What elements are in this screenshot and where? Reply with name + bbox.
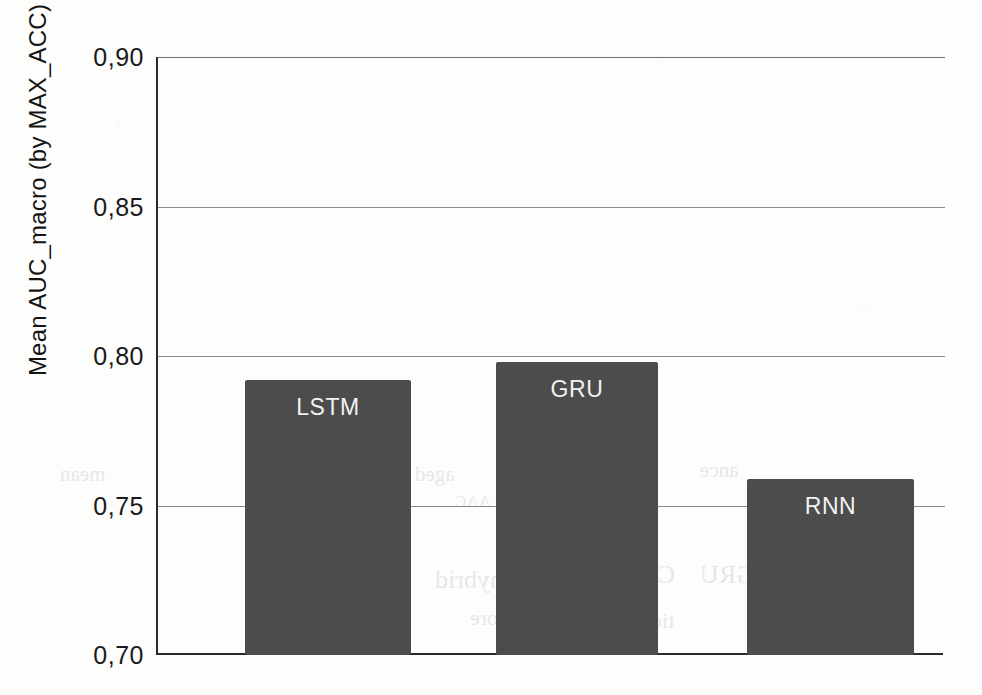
y-axis-tick-labels: 0,900,850,800,750,70: [0, 0, 144, 695]
gridline: [158, 207, 945, 208]
y-axis-tick-label: 0,75: [0, 491, 144, 520]
gridline: [158, 356, 945, 357]
y-axis-tick-label: 0,90: [0, 43, 144, 72]
bar-gru[interactable]: GRU: [496, 362, 658, 655]
y-axis-tick-label: 0,85: [0, 192, 144, 221]
y-axis-tick-label: 0,70: [0, 641, 144, 670]
bar-chart: Mean AUC_macro (by MAX_ACC) 0,900,850,80…: [0, 0, 982, 695]
bar-lstm[interactable]: LSTM: [245, 380, 411, 655]
bar-rnn[interactable]: RNN: [747, 479, 914, 655]
bar-label: RNN: [747, 493, 914, 520]
bar-label: LSTM: [245, 394, 411, 421]
y-axis-tick-label: 0,80: [0, 342, 144, 371]
plot-area: LSTMGRURNN: [156, 57, 943, 655]
gridline: [158, 57, 945, 58]
bar-label: GRU: [496, 376, 658, 403]
